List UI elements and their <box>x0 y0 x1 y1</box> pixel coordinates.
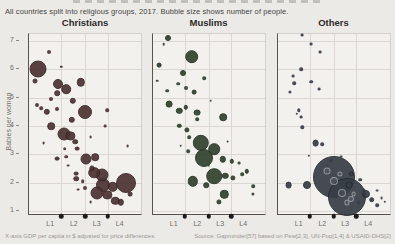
country-bubble <box>69 97 75 103</box>
country-bubble <box>375 203 379 207</box>
x-axis-boundary-dot <box>331 214 336 219</box>
country-bubble <box>89 136 92 139</box>
y-tick-label: 7 <box>4 36 14 43</box>
country-bubble <box>207 164 210 167</box>
country-bubble <box>64 155 68 159</box>
country-bubble <box>301 34 304 37</box>
y-tick-label: 5 <box>4 93 14 100</box>
country-bubble <box>329 158 333 162</box>
country-bubble <box>340 155 343 158</box>
country-bubble <box>104 125 107 128</box>
panel-muslims: L1L2L3L4 <box>152 33 266 215</box>
country-bubble <box>176 82 180 86</box>
y-tick-label: 1 <box>4 206 14 213</box>
country-bubble <box>208 144 220 156</box>
country-bubble <box>309 80 313 84</box>
country-bubble <box>162 43 165 46</box>
country-bubble <box>321 143 325 147</box>
x-axis-boundary-dot <box>308 214 313 219</box>
country-bubble <box>76 78 84 86</box>
country-bubble <box>319 51 322 54</box>
country-bubble <box>157 63 162 68</box>
country-bubble <box>55 107 59 111</box>
country-bubble <box>54 91 60 97</box>
country-bubble <box>177 124 181 128</box>
country-bubble <box>209 99 212 102</box>
country-bubble <box>346 182 353 189</box>
country-bubble <box>40 107 44 111</box>
y-tick-mark <box>16 68 19 69</box>
country-bubble <box>303 181 311 189</box>
y-tick-mark <box>16 153 19 154</box>
country-bubble-ring <box>351 192 356 197</box>
y-tick-mark <box>16 125 19 126</box>
x-tick-label: L2 <box>70 220 78 227</box>
x-tick-label: L3 <box>93 220 101 227</box>
country-bubble <box>180 70 186 76</box>
country-bubble <box>81 179 85 183</box>
y-tick-label: 4 <box>4 121 14 128</box>
gridline-vertical <box>310 34 311 214</box>
country-bubble <box>67 164 70 167</box>
country-bubble <box>83 186 87 190</box>
country-bubble <box>300 126 303 129</box>
country-bubble <box>220 190 228 198</box>
country-bubble <box>179 145 182 148</box>
country-bubble <box>220 156 226 162</box>
country-bubble <box>300 116 303 119</box>
country-bubble <box>74 171 79 176</box>
country-bubble <box>35 103 39 107</box>
country-bubble <box>184 86 188 90</box>
x-tick-label: L2 <box>193 220 201 227</box>
country-bubble <box>230 159 234 163</box>
country-bubble <box>285 182 292 189</box>
country-bubble <box>184 105 188 109</box>
gridline-vertical <box>61 34 62 214</box>
country-bubble <box>29 61 46 78</box>
x-tick-label: L1 <box>170 220 178 227</box>
country-bubble <box>312 140 319 147</box>
country-bubble <box>240 172 244 176</box>
panel-title-muslims: Muslims <box>152 17 266 28</box>
country-bubble <box>293 81 297 85</box>
country-bubble <box>185 50 199 64</box>
country-bubble <box>325 164 328 167</box>
country-bubble <box>219 114 227 122</box>
country-bubble <box>77 188 80 191</box>
country-bubble <box>185 128 190 133</box>
x-axis-boundary-dot <box>229 214 234 219</box>
panel-christians: L1L2L3L4 <box>28 33 142 215</box>
country-bubble <box>156 79 159 82</box>
gridline-vertical <box>231 34 232 214</box>
x-tick-label: L4 <box>239 220 247 227</box>
country-bubble <box>106 109 110 113</box>
source-note: Source: Gapminder[57] based on Pew[2,3],… <box>194 233 391 239</box>
country-bubble-ring <box>338 189 346 197</box>
country-bubble <box>384 201 386 203</box>
x-axis-boundary-dot <box>83 214 88 219</box>
x-tick-label: L3 <box>216 220 224 227</box>
country-bubble <box>91 153 99 161</box>
bubble-chart-figure: All countries split into religious group… <box>0 0 395 244</box>
panel-others: L1L2L3L4 <box>277 33 391 215</box>
panel-title-christians: Christians <box>28 17 142 28</box>
country-bubble <box>47 50 51 54</box>
country-bubble <box>188 176 198 186</box>
country-bubble <box>81 154 92 165</box>
x-tick-label: L2 <box>318 220 326 227</box>
country-bubble <box>206 168 222 184</box>
country-bubble <box>49 97 53 101</box>
country-bubble <box>226 140 229 143</box>
country-bubble <box>72 139 78 145</box>
x-tick-label: L4 <box>116 220 124 227</box>
country-bubble <box>73 176 79 182</box>
country-bubble <box>288 90 291 93</box>
x-axis-boundary-dot <box>183 214 188 219</box>
country-bubble <box>68 117 74 123</box>
country-bubble <box>297 109 300 112</box>
country-bubble <box>127 192 132 197</box>
country-bubble <box>237 161 240 164</box>
country-bubble <box>369 197 375 203</box>
country-bubble <box>244 169 248 173</box>
y-tick-label: 2 <box>4 178 14 185</box>
